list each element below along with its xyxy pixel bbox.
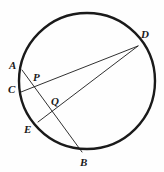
- segment-ed: [38, 46, 138, 122]
- geometry-figure: A C E B D P Q: [0, 0, 164, 172]
- geometry-canvas: [0, 0, 164, 172]
- chord-group: [21, 46, 138, 152]
- point-label-q: Q: [51, 96, 59, 107]
- point-label-e: E: [24, 124, 31, 135]
- point-label-a: A: [9, 60, 16, 71]
- point-label-b: B: [80, 157, 87, 168]
- point-label-c: C: [8, 84, 15, 95]
- point-label-d: D: [141, 29, 149, 40]
- point-label-p: P: [33, 72, 40, 83]
- segment-cd: [21, 46, 138, 92]
